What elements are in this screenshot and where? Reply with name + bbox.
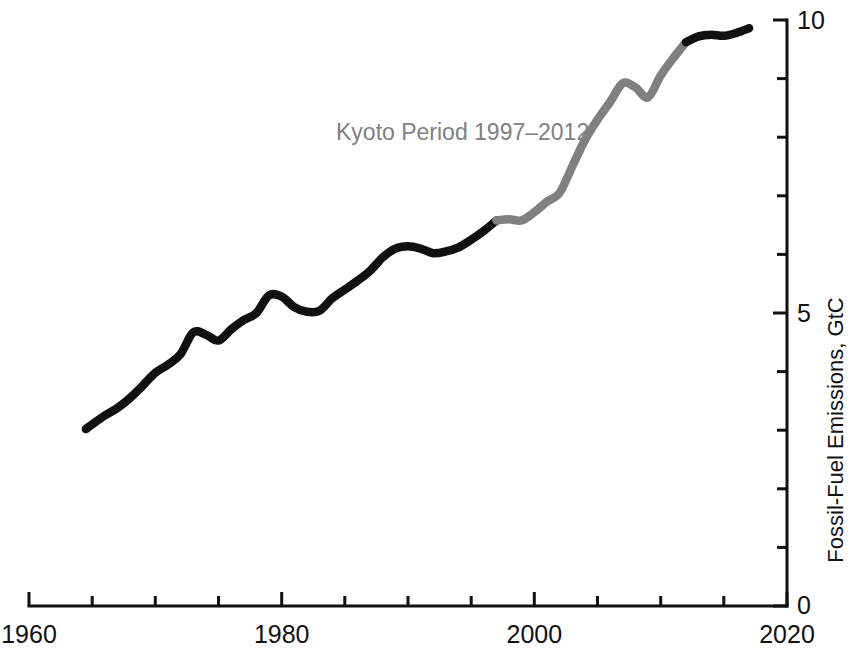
kyoto-period-annotation: Kyoto Period 1997–2012 [336,119,589,145]
y-tick-label-10: 10 [797,6,825,34]
y-tick-label-5: 5 [797,299,811,327]
x-tick-label-2020: 2020 [759,620,815,648]
y-axis-major-ticks [773,20,787,606]
x-tick-label-1980: 1980 [254,620,310,648]
y-tick-label-0: 0 [797,591,811,619]
x-tick-label-2000: 2000 [506,620,562,648]
emissions-line-pre-kyoto [86,220,497,429]
y-axis-title: Fossil-Fuel Emissions, GtC [823,297,848,562]
emissions-line-post-kyoto [686,28,749,42]
chart-figure: 1960 1980 2000 2020 0 5 10 Fossil-Fuel E… [0,0,859,659]
emissions-line-chart: 1960 1980 2000 2020 0 5 10 Fossil-Fuel E… [0,0,859,659]
x-tick-label-1960: 1960 [1,620,57,648]
